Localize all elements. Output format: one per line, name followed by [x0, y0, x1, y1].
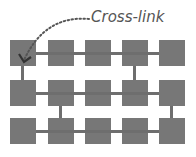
cross-link-label: Cross-link	[91, 8, 164, 26]
